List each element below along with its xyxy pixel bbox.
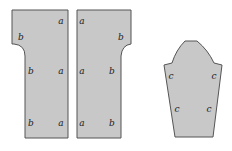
right-front-piece-label: a [79, 66, 84, 76]
right-front-piece-label: b [118, 32, 124, 42]
left-front-piece-label: a [58, 66, 63, 76]
left-front-piece-label: a [58, 118, 63, 128]
right-front-piece-label: b [109, 66, 115, 76]
right-front-piece-label: b [109, 118, 115, 128]
right-front-piece-label: a [79, 118, 84, 128]
left-front-piece-label: b [28, 66, 34, 76]
sleeve-piece-label: c [211, 71, 216, 81]
pattern-diagram: abbabaabababcccc [0, 0, 232, 151]
sleeve-piece-label: c [168, 71, 173, 81]
left-front-piece-label: a [58, 16, 63, 26]
sleeve-piece [164, 41, 222, 137]
left-front-piece-label: b [18, 32, 24, 42]
sleeve-piece-label: c [174, 104, 179, 114]
right-front-piece-label: a [79, 16, 84, 26]
sleeve-piece-label: c [206, 104, 211, 114]
left-front-piece-label: b [28, 118, 34, 128]
right-front-piece [77, 10, 131, 138]
